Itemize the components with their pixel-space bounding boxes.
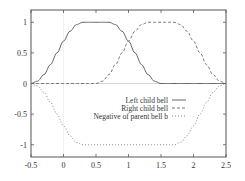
legend-label: Negative of parent bell b (93, 112, 168, 121)
series-line (31, 22, 226, 83)
legend-item-negative-parent-bell: Negative of parent bell b (93, 112, 186, 121)
x-tick-label: 0 (62, 161, 66, 170)
x-tick-label: 1 (127, 161, 131, 170)
x-tick-label: 2 (192, 161, 196, 170)
x-axis-tick-labels: -0.500.511.522.5 (25, 161, 231, 170)
y-tick-label: 0.5 (17, 49, 27, 58)
legend: Left child bell Right child bell Negativ… (93, 96, 186, 121)
y-tick-label: -1 (20, 141, 27, 150)
x-tick-label: -0.5 (25, 161, 38, 170)
y-tick-label: 1 (23, 18, 27, 27)
y-tick-label: -0.5 (14, 110, 27, 119)
x-tick-label: 2.5 (221, 161, 231, 170)
bell-functions-chart: -0.500.511.522.5 -1-0.500.51 Left child … (0, 0, 245, 181)
x-tick-label: 0.5 (91, 161, 101, 170)
y-tick-label: 0 (23, 80, 27, 89)
x-tick-label: 1.5 (156, 161, 166, 170)
y-axis-tick-labels: -1-0.500.51 (14, 18, 27, 150)
series-line (31, 22, 226, 83)
